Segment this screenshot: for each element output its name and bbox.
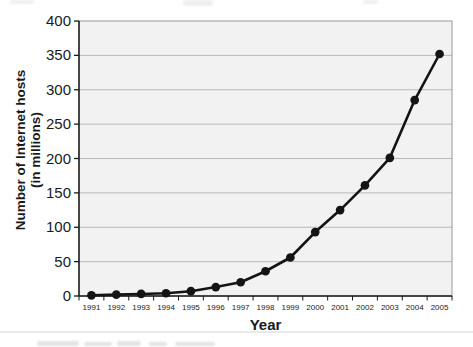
y-tick-label-50: 50 — [54, 253, 71, 270]
cropped-text-artifact — [175, 342, 215, 346]
data-point-1994 — [162, 289, 171, 298]
x-tick-label-1996: 1996 — [207, 303, 225, 312]
y-tick-label-0: 0 — [63, 287, 71, 304]
x-tick-label-2005: 2005 — [431, 303, 449, 312]
data-point-1997 — [236, 278, 245, 287]
x-tick-label-1991: 1991 — [83, 303, 101, 312]
cropped-text-artifact — [149, 342, 167, 346]
data-point-1995 — [187, 287, 196, 296]
y-tick-label-300: 300 — [46, 81, 71, 98]
y-tick-label-100: 100 — [46, 218, 71, 235]
data-point-2001 — [336, 206, 345, 215]
data-point-1993 — [137, 290, 146, 299]
x-tick-label-1995: 1995 — [182, 303, 200, 312]
cropped-text-artifact — [84, 342, 112, 346]
y-tick-label-350: 350 — [46, 46, 71, 63]
line-chart-svg: 0501001502002503003504001991199219931994… — [0, 0, 473, 347]
x-tick-label-1998: 1998 — [257, 303, 275, 312]
x-tick-label-1993: 1993 — [132, 303, 150, 312]
x-tick-label-2004: 2004 — [406, 303, 424, 312]
y-axis-title: Number of Internet hosts (in millions) — [13, 62, 43, 238]
cropped-text-artifact — [37, 341, 79, 346]
y-tick-label-150: 150 — [46, 184, 71, 201]
page-divider-line — [0, 331, 473, 333]
y-tick-label-200: 200 — [46, 150, 71, 167]
x-tick-label-1997: 1997 — [232, 303, 250, 312]
y-axis-title-line2: (in millions) — [28, 62, 43, 238]
x-tick-label-2000: 2000 — [306, 303, 324, 312]
data-point-1998 — [261, 267, 270, 276]
data-point-2000 — [311, 228, 320, 237]
data-point-2002 — [361, 181, 370, 190]
internet-hosts-growth-chart: 0501001502002503003504001991199219931994… — [0, 0, 473, 347]
data-point-2004 — [410, 96, 419, 105]
y-tick-label-400: 400 — [46, 12, 71, 29]
y-tick-label-250: 250 — [46, 115, 71, 132]
data-point-1996 — [211, 283, 220, 292]
x-tick-label-1992: 1992 — [107, 303, 125, 312]
x-tick-label-1999: 1999 — [281, 303, 299, 312]
document-page: 0501001502002503003504001991199219931994… — [0, 0, 473, 347]
data-point-1991 — [87, 291, 96, 300]
data-point-1992 — [112, 290, 121, 299]
cropped-text-artifact — [117, 341, 141, 346]
data-point-2005 — [435, 50, 444, 59]
x-tick-label-2001: 2001 — [331, 303, 349, 312]
x-tick-label-2003: 2003 — [381, 303, 399, 312]
x-tick-label-2002: 2002 — [356, 303, 374, 312]
data-point-1999 — [286, 253, 295, 262]
data-point-2003 — [385, 153, 394, 162]
y-axis-title-line1: Number of Internet hosts — [13, 62, 28, 238]
x-tick-label-1994: 1994 — [157, 303, 175, 312]
